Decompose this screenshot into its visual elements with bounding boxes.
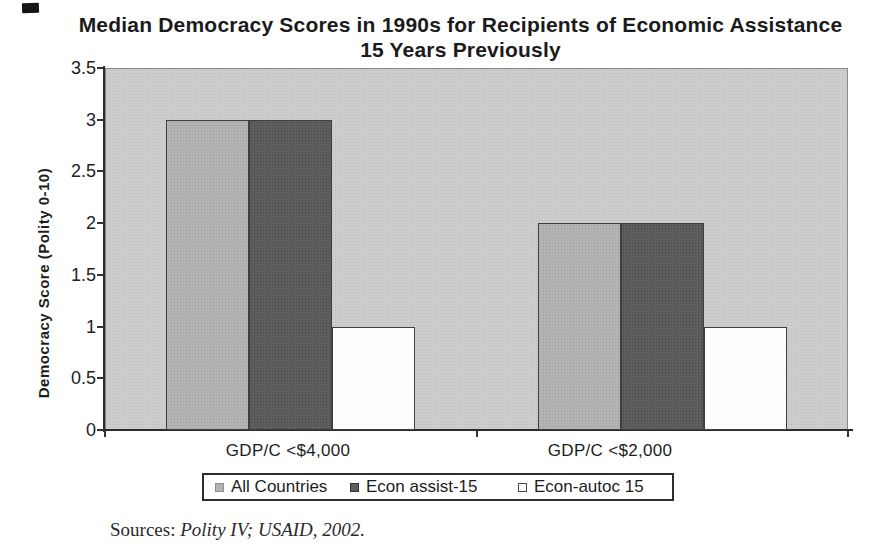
y-tick-label: 3 (38, 111, 96, 129)
y-tick-mark (97, 119, 104, 121)
legend-swatch-all-countries (215, 483, 224, 492)
source-note: Sources: Polity IV; USAID, 2002. (110, 519, 365, 541)
y-tick-label: 0.5 (38, 369, 96, 387)
legend-label-econ-autoc-15: Econ-autoc 15 (534, 477, 644, 497)
y-tick-label: 2.5 (38, 162, 96, 180)
legend-swatch-econ-autoc-15 (518, 483, 527, 492)
legend-label-all-countries: All Countries (231, 477, 327, 497)
y-tick-mark (97, 429, 104, 431)
y-tick-label: 0 (38, 421, 96, 439)
x-category-label-1: GDP/C <$4,000 (178, 441, 398, 461)
legend-swatch-econ-assist-15 (350, 483, 359, 492)
x-tick-mark (476, 431, 478, 437)
x-tick-mark (104, 431, 106, 437)
y-tick-label: 3.5 (38, 59, 96, 77)
y-tick-mark (97, 67, 104, 69)
source-citation: Polity IV; USAID, 2002. (180, 519, 365, 540)
legend-item-econ-assist-15: Econ assist-15 (350, 475, 478, 499)
legend: All CountriesEcon assist-15Econ-autoc 15 (202, 473, 674, 501)
y-tick-label: 1.5 (38, 266, 96, 284)
y-tick-mark (97, 326, 104, 328)
legend-label-econ-assist-15: Econ assist-15 (366, 477, 478, 497)
scan-artifact-mark (22, 3, 39, 14)
y-tick-mark (97, 170, 104, 172)
bar-econ-assist-15-gdp-c-4-000 (249, 120, 332, 430)
y-tick-label: 2 (38, 214, 96, 232)
legend-item-all-countries: All Countries (215, 475, 327, 499)
bar-econ-assist-15-gdp-c-2-000 (621, 223, 704, 430)
bar-all-countries-gdp-c-4-000 (166, 120, 249, 430)
bar-econ-autoc-15-gdp-c-2-000 (704, 327, 787, 430)
source-prefix: Sources: (110, 519, 180, 540)
chart-figure: Median Democracy Scores in 1990s for Rec… (0, 0, 887, 552)
legend-item-econ-autoc-15: Econ-autoc 15 (518, 475, 644, 499)
y-tick-mark (97, 274, 104, 276)
chart-title-line-2: 15 Years Previously (34, 38, 887, 62)
x-category-label-2: GDP/C <$2,000 (500, 441, 720, 461)
chart-title-line-1: Median Democracy Scores in 1990s for Rec… (34, 13, 887, 37)
y-tick-label: 1 (38, 318, 96, 336)
y-tick-mark (97, 222, 104, 224)
x-tick-mark (847, 431, 849, 437)
y-tick-mark (97, 377, 104, 379)
bar-econ-autoc-15-gdp-c-4-000 (332, 327, 415, 430)
bar-all-countries-gdp-c-2-000 (538, 223, 621, 430)
